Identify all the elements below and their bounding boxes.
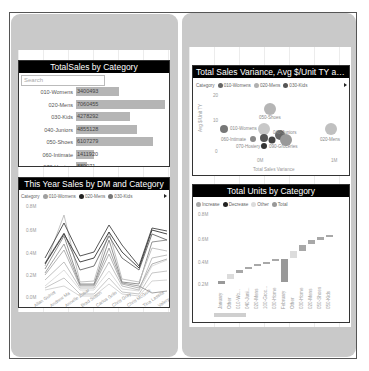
point-label: 090-Groceries — [269, 144, 298, 149]
bar-row[interactable]: 060-Intimate1411920 — [19, 150, 170, 160]
bar[interactable]: 4855128 — [76, 125, 137, 134]
x-tick: January — [218, 293, 223, 309]
search-input[interactable]: Search — [21, 75, 105, 86]
bar-label: 010-Womens — [19, 87, 73, 97]
bar-label: 030-Kids — [19, 112, 73, 122]
bar-label: 070-Hosiery — [19, 162, 73, 167]
x-tick: 030-Home — [272, 288, 277, 309]
bar-row[interactable]: 070-Hosiery889071 — [19, 162, 170, 167]
bar-label: 020-Mens — [19, 100, 73, 110]
horizontal-scrollbar[interactable] — [214, 313, 246, 317]
bar[interactable]: 3400493 — [76, 87, 119, 96]
x-tick: 020-Mens — [254, 289, 259, 309]
bar[interactable]: 4278292 — [76, 112, 130, 121]
x-tick: 030-Home — [299, 288, 304, 309]
bar-row[interactable]: 010-Womens3400493 — [19, 87, 170, 97]
x-tick: Other — [227, 298, 232, 310]
x-tick: 020-Mens — [308, 289, 313, 309]
bar-value: 7060455 — [77, 100, 98, 109]
point-label: 040-Juniors — [273, 130, 297, 135]
bar[interactable]: 7060455 — [76, 100, 165, 109]
bar-value: 889071 — [77, 162, 95, 167]
scatter-plot[interactable] — [193, 66, 350, 176]
bar-row[interactable]: 050-Shoes6107279 — [19, 137, 170, 147]
point-label: 050-Shoes — [259, 115, 281, 120]
point-label: 060-Intimate — [221, 137, 246, 142]
x-tick: 100-Groc... — [263, 286, 268, 309]
bar[interactable]: 889071 — [76, 162, 87, 167]
bar-value: 4278292 — [77, 112, 98, 121]
x-tick: 050-Shoes — [317, 287, 322, 309]
bar-row[interactable]: 030-Kids4278292 — [19, 112, 170, 122]
x-tick: February — [281, 291, 286, 309]
bar[interactable]: 6107279 — [76, 137, 153, 146]
bar-value: 6107279 — [77, 137, 98, 146]
point-label: 020-Mens — [320, 137, 340, 142]
bar-label: 060-Intimate — [19, 150, 73, 160]
x-tick: Other — [290, 298, 295, 310]
sales-variance-scatter-visual[interactable]: Total Sales Variance, Avg $/Unit TY and … — [192, 65, 350, 176]
total-sales-by-category-visual[interactable]: TotalSales by Category Search 010-Womens… — [18, 60, 170, 167]
bar-value: 4855128 — [77, 125, 98, 134]
point-label: 010-Womens — [230, 126, 257, 131]
bar-label: 050-Shoes — [19, 137, 73, 147]
bar-value: 3400493 — [77, 87, 98, 96]
x-tick: 010-Wo... — [236, 289, 241, 309]
bar-label: 040-Juniors — [19, 125, 73, 135]
bar-row[interactable]: 040-Juniors4855128 — [19, 125, 170, 135]
bar-value: 1411920 — [77, 150, 98, 159]
total-units-waterfall-visual[interactable]: Total Units by Category Increase Decreas… — [192, 184, 350, 323]
bar[interactable]: 1411920 — [76, 150, 94, 159]
x-tick: 040-Juni... — [245, 288, 250, 309]
bar-row[interactable]: 020-Mens7060455 — [19, 100, 170, 110]
visual-title: TotalSales by Category — [19, 61, 169, 73]
this-year-sales-by-dm-visual[interactable]: This Year Sales by DM and Category Categ… — [18, 177, 170, 308]
x-tick: 050-Kids — [326, 291, 331, 309]
point-label: 070-Hosiery — [236, 144, 260, 149]
